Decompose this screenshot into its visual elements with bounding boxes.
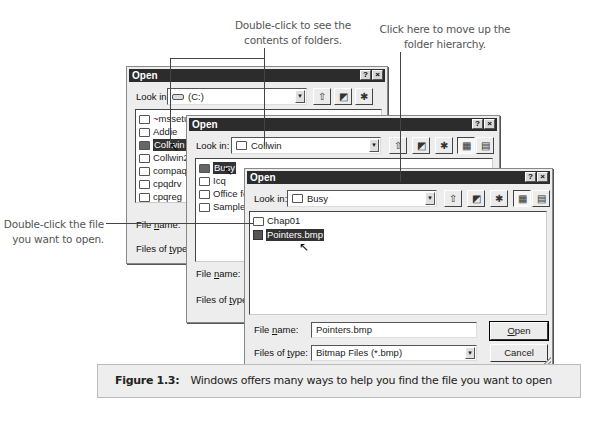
chevron-down-icon[interactable]: ▼ <box>369 139 379 152</box>
details-view-icon[interactable]: ▤ <box>532 190 550 207</box>
help-button[interactable]: ? <box>472 119 483 129</box>
look-in-combo[interactable]: Collwin ▼ <box>231 137 381 154</box>
file-name-label: File name: <box>254 324 298 335</box>
desktop-icon[interactable]: ◩ <box>412 137 430 154</box>
figure-text: Windows offers many ways to help you fin… <box>191 374 552 387</box>
file-list[interactable]: Chap01 Pointers.bmp <box>249 211 547 315</box>
figure-caption: Figure 1.3: Windows offers many ways to … <box>97 364 581 398</box>
close-button[interactable]: × <box>372 70 383 80</box>
files-of-type-label: Files of type: <box>136 243 190 254</box>
file-name-label: File name: <box>136 219 180 230</box>
new-folder-icon[interactable]: ✱ <box>355 88 373 105</box>
look-in-label: Look in: <box>196 140 229 151</box>
up-one-level-icon[interactable]: ⇧ <box>389 137 407 154</box>
look-in-combo[interactable]: (C:) ▼ <box>167 88 307 105</box>
new-folder-icon[interactable]: ✱ <box>435 137 453 154</box>
folder-icon <box>139 167 150 176</box>
folder-icon <box>139 141 150 150</box>
list-item[interactable]: Addie <box>139 126 177 138</box>
folder-icon <box>139 115 150 124</box>
help-button[interactable]: ? <box>360 70 371 80</box>
folder-icon <box>199 164 210 173</box>
bitmap-file-icon <box>253 230 263 240</box>
callout-double-click-folders: Double-click to see the contents of fold… <box>218 18 368 48</box>
folder-icon <box>253 217 264 226</box>
cancel-button[interactable]: Cancel <box>490 344 548 362</box>
files-of-type-label: Files of type: <box>254 347 308 358</box>
callout-move-up-hierarchy: Click here to move up the folder hierarc… <box>370 22 520 52</box>
new-folder-icon[interactable]: ✱ <box>490 190 508 207</box>
leader-line-folders-h <box>170 58 265 59</box>
up-one-level-icon[interactable]: ⇧ <box>313 88 331 105</box>
folder-icon <box>139 180 150 189</box>
list-item-selected[interactable]: Pointers.bmp <box>253 229 324 241</box>
files-of-type-label: Files of type: <box>196 294 250 305</box>
look-in-label: Look in: <box>254 193 287 204</box>
close-button[interactable]: × <box>484 119 495 129</box>
figure-label: Figure 1.3: <box>115 374 179 387</box>
folder-icon <box>199 177 210 186</box>
mouse-pointer-icon: ↖ <box>299 240 309 254</box>
open-button[interactable]: Open <box>490 322 548 340</box>
folder-icon <box>139 193 150 202</box>
leader-line-up-level <box>400 52 401 182</box>
look-in-label: Look in: <box>136 91 169 102</box>
title-bar: Open ? × <box>129 69 385 82</box>
chevron-down-icon[interactable]: ▼ <box>465 347 475 359</box>
list-view-icon[interactable]: ▦ <box>457 137 475 154</box>
list-item[interactable]: Collwin2 <box>139 152 189 164</box>
details-view-icon[interactable]: ▤ <box>476 137 494 154</box>
open-dialog-busy: Open ? × Look in: Busy ▼ ⇧ ◩ ✱ ▦ ▤ Chap0… <box>244 168 553 367</box>
callout-double-click-file: Double-click the file you want to open. <box>0 217 104 247</box>
list-item[interactable]: Icq <box>199 175 226 187</box>
folder-icon <box>292 194 303 203</box>
folder-icon <box>139 154 150 163</box>
file-name-label: File name: <box>196 268 240 279</box>
folder-icon <box>199 203 210 212</box>
chevron-down-icon[interactable]: ▼ <box>425 192 435 205</box>
leader-line-folders-right <box>264 48 265 146</box>
desktop-icon[interactable]: ◩ <box>334 88 352 105</box>
up-one-level-icon[interactable]: ⇧ <box>444 190 462 207</box>
file-name-input[interactable]: Pointers.bmp <box>311 322 477 338</box>
folder-icon <box>139 128 150 137</box>
mouse-pointer-icon: ↖ <box>223 164 233 178</box>
list-item[interactable]: Chap01 <box>253 215 300 227</box>
folder-icon <box>199 190 210 199</box>
list-view-icon[interactable]: ▦ <box>513 190 531 207</box>
desktop-icon[interactable]: ◩ <box>467 190 485 207</box>
drive-icon <box>172 94 184 100</box>
list-item[interactable]: Sample <box>199 201 245 213</box>
list-item[interactable]: cpqdrv <box>139 178 182 190</box>
chevron-down-icon[interactable]: ▼ <box>295 90 305 103</box>
leader-line-folders-left <box>170 58 171 143</box>
leader-line-file <box>106 223 253 224</box>
look-in-combo[interactable]: Busy ▼ <box>287 190 437 207</box>
close-button[interactable]: × <box>537 172 548 182</box>
help-button[interactable]: ? <box>525 172 536 182</box>
list-item[interactable]: compaq <box>139 165 187 177</box>
title-bar: Open ? × <box>189 118 497 131</box>
folder-icon <box>236 141 247 150</box>
title-bar: Open ? × <box>247 171 550 184</box>
list-item[interactable]: cpqreg <box>139 191 182 203</box>
files-of-type-select[interactable]: Bitmap Files (*.bmp) ▼ <box>311 345 477 361</box>
